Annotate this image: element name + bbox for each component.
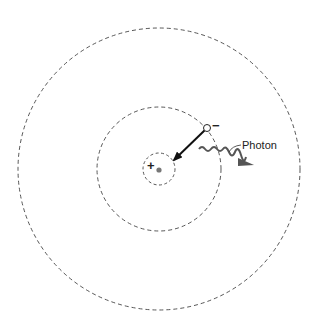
- electron: [204, 125, 211, 132]
- electron-transition-arrow: [174, 130, 205, 160]
- nucleus-plus-sign: +: [147, 158, 155, 173]
- photon-label: Photon: [242, 139, 277, 151]
- diagram-canvas: + − Photon: [0, 0, 314, 328]
- bohr-atom-diagram: + − Photon: [0, 0, 314, 328]
- nucleus-dot: [156, 167, 161, 172]
- electron-minus-sign: −: [212, 118, 220, 133]
